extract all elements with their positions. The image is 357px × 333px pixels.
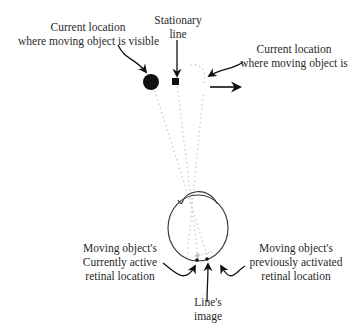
active-retinal-dot — [195, 258, 199, 262]
label-invisible-location: Current location where moving object is — [234, 42, 354, 70]
pointer-active — [163, 263, 195, 276]
pointer-previous — [221, 266, 245, 276]
pointer-visible — [118, 45, 146, 72]
eye — [168, 192, 228, 261]
label-active-retinal: Moving object's Currently active retinal… — [80, 241, 160, 283]
label-stationary-line: Stationary line — [152, 13, 204, 41]
moving-object-visible — [143, 74, 159, 90]
stationary-line-marker — [172, 78, 179, 85]
line-image-dot — [205, 257, 209, 261]
label-line-image: Line's image — [188, 295, 228, 323]
label-visible-location: Current location where moving object is … — [18, 20, 158, 48]
sight-lines — [152, 65, 208, 258]
label-previous-retinal: Moving object's previously activated ret… — [246, 241, 346, 283]
